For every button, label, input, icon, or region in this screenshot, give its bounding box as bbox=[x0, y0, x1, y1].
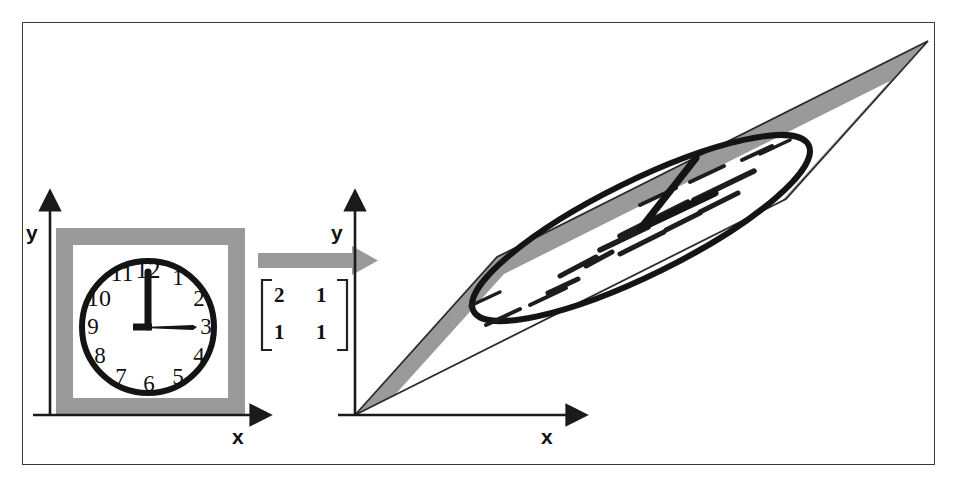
clock-numeral-11: 11 bbox=[110, 260, 133, 286]
clock-numeral-3: 3 bbox=[200, 314, 212, 339]
right-panel: y x bbox=[331, 41, 928, 448]
right-x-axis-label: x bbox=[541, 425, 553, 448]
figure-stage: 12 1 2 3 4 5 6 7 8 9 10 11 bbox=[0, 0, 959, 482]
matrix-cell-1-0: 1 bbox=[274, 320, 285, 344]
matrix-cell-0-1: 1 bbox=[316, 283, 327, 307]
sheared-square-inner bbox=[393, 81, 890, 397]
left-y-axis-label: y bbox=[26, 221, 38, 244]
left-x-axis-label: x bbox=[232, 425, 244, 448]
clock-numeral-6: 6 bbox=[143, 371, 155, 396]
clock-numeral-9: 9 bbox=[87, 314, 99, 339]
transformation-arrow-icon bbox=[258, 246, 378, 275]
matrix-left-bracket bbox=[262, 280, 272, 350]
figure-canvas: 12 1 2 3 4 5 6 7 8 9 10 11 bbox=[0, 0, 959, 482]
clock-numeral-4: 4 bbox=[193, 343, 205, 368]
clock-numeral-5: 5 bbox=[172, 364, 184, 389]
left-panel: 12 1 2 3 4 5 6 7 8 9 10 11 bbox=[26, 209, 252, 448]
clock-numeral-7: 7 bbox=[115, 364, 127, 389]
matrix-cell-0-0: 2 bbox=[274, 283, 285, 307]
matrix-display: 2 1 1 1 bbox=[262, 280, 347, 350]
clock-numeral-2: 2 bbox=[193, 286, 205, 311]
clock-numeral-8: 8 bbox=[94, 343, 106, 368]
right-y-axis-label: y bbox=[331, 221, 343, 244]
operator-group: 2 1 1 1 bbox=[258, 246, 378, 350]
matrix-cell-1-1: 1 bbox=[316, 320, 327, 344]
matrix-right-bracket bbox=[337, 280, 347, 350]
clock-face: 12 1 2 3 4 5 6 7 8 9 10 11 bbox=[82, 256, 214, 396]
clock-numeral-10: 10 bbox=[87, 285, 111, 311]
clock-numeral-1: 1 bbox=[172, 265, 184, 290]
